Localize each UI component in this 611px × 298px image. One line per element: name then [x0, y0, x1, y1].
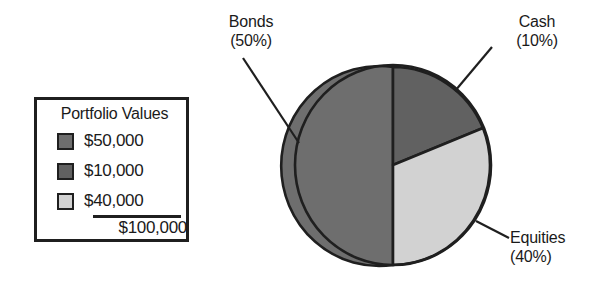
leader-line-bonds: [243, 58, 299, 143]
callout-equities-percent: (40%): [510, 247, 606, 266]
callout-cash-percent: (10%): [497, 31, 577, 50]
legend-item[interactable]: $10,000: [37, 157, 192, 187]
pie-slice-bonds[interactable]: [281, 66, 393, 266]
legend-rows: $50,000 $10,000 $40,000: [37, 127, 192, 217]
legend-title: Portfolio Values: [37, 104, 192, 123]
callout-cash-name: Cash: [497, 12, 577, 31]
pie-chart-figure: Bonds (50%) Cash (10%) Equities (40%) Po…: [0, 0, 611, 298]
legend-value-cash: $10,000: [84, 160, 143, 182]
callout-equities-name: Equities: [510, 228, 606, 247]
legend-swatch-icon-cash: [57, 163, 74, 180]
callout-bonds-percent: (50%): [205, 31, 297, 50]
callout-cash: Cash (10%): [497, 12, 577, 50]
legend-total: $100,000: [37, 217, 187, 239]
legend-item[interactable]: $40,000: [37, 187, 192, 217]
callout-bonds: Bonds (50%): [205, 12, 297, 50]
legend-swatch-icon-bonds: [57, 133, 74, 150]
leader-line-cash: [455, 47, 492, 91]
leader-line-equities: [476, 221, 509, 238]
legend-swatch-icon-equities: [57, 193, 74, 210]
legend: Portfolio Values $50,000 $10,000 $40,000…: [34, 97, 189, 242]
legend-value-bonds: $50,000: [84, 130, 143, 152]
legend-item[interactable]: $50,000: [37, 127, 192, 157]
legend-value-equities: $40,000: [84, 190, 143, 212]
callout-bonds-name: Bonds: [205, 12, 297, 31]
callout-equities: Equities (40%): [510, 228, 606, 266]
